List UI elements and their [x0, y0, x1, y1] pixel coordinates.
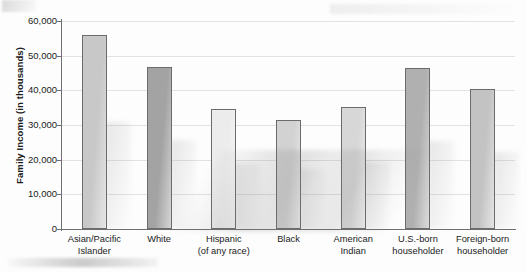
y-tick-mark	[57, 194, 62, 195]
y-tick-mark	[57, 229, 62, 230]
scan-artifact-top-right	[330, 4, 520, 14]
x-category-label: Hispanic (of any race)	[191, 234, 256, 257]
y-tick-label: 10,000	[13, 189, 57, 199]
gridline	[62, 90, 515, 91]
plot-area	[62, 21, 515, 229]
x-category-label: Black	[256, 234, 321, 246]
bar-shadow	[105, 122, 131, 229]
x-category-label: Asian/Pacific Islander	[62, 234, 127, 257]
bar-shadow	[170, 140, 196, 229]
x-category-label: American Indian	[321, 234, 386, 257]
y-tick-mark	[57, 125, 62, 126]
y-axis-tick-labels: 010,00020,00030,00040,00050,00060,000	[12, 0, 57, 272]
bar-shadow	[234, 163, 260, 229]
y-tick-label: 0	[13, 224, 57, 234]
y-tick-mark	[57, 56, 62, 57]
bar-shadow	[493, 152, 519, 229]
x-category-label: U.S.-born householder	[386, 234, 451, 257]
gridline	[62, 21, 515, 22]
bar	[211, 109, 236, 229]
y-tick-label: 60,000	[13, 16, 57, 26]
x-category-label: White	[127, 234, 192, 246]
bar	[341, 107, 366, 229]
bar	[82, 35, 107, 229]
bar	[405, 68, 430, 229]
bar-shadow	[299, 169, 325, 229]
y-tick-mark	[57, 21, 62, 22]
y-tick-mark	[57, 160, 62, 161]
y-tick-label: 50,000	[13, 51, 57, 61]
bar-shadow	[364, 162, 390, 229]
x-axis-line	[61, 229, 516, 230]
bar-shadow	[428, 141, 454, 229]
bar	[276, 120, 301, 229]
gridline	[62, 56, 515, 57]
bar-chart: Family Income (in thousands) 010,00020,0…	[0, 0, 527, 272]
y-tick-mark	[57, 90, 62, 91]
bar	[470, 89, 495, 229]
bar	[147, 67, 172, 229]
x-category-label: Foreign-born householder	[450, 234, 515, 257]
y-tick-label: 30,000	[13, 120, 57, 130]
y-tick-label: 20,000	[13, 155, 57, 165]
y-tick-label: 40,000	[13, 85, 57, 95]
